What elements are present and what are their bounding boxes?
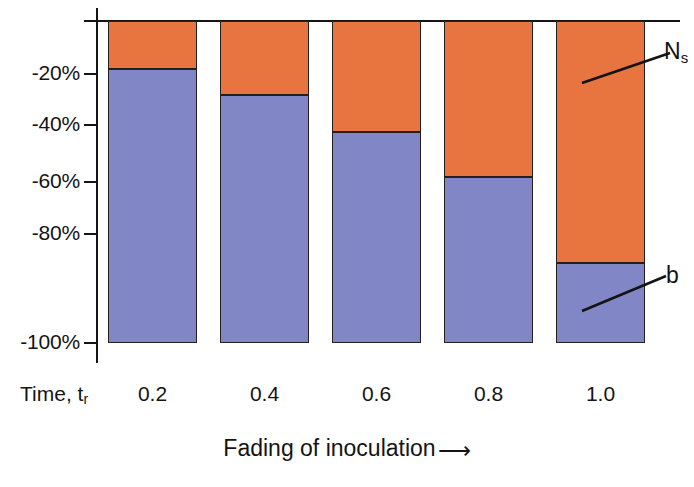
y-tick-mark [84, 73, 97, 75]
y-tick-label: -40% [0, 113, 80, 134]
y-tick-mark [84, 342, 97, 344]
plot-area: -20% -40% -60% -80% -100% [0, 0, 694, 370]
chart-container: -20% -40% -60% -80% -100% Ns b Time, tr [0, 0, 694, 487]
x-axis-row-title: Time, tr [20, 383, 88, 404]
bar-segment-ns [108, 21, 197, 69]
bar-segment-b [108, 69, 197, 343]
bar-0.6 [332, 21, 421, 343]
x-axis-row-title-text: Time, t [20, 382, 83, 405]
y-tick-label: -100% [0, 331, 80, 352]
series-callout-ns: Ns [664, 40, 688, 63]
right-arrow-icon: ⟶ [438, 439, 471, 462]
bar-segment-ns [220, 21, 309, 95]
bar-segment-ns [444, 21, 533, 177]
x-axis-label-0.2: 0.2 [108, 383, 197, 404]
series-callout-ns-subscript: s [681, 49, 689, 66]
x-axis-label-0.8: 0.8 [444, 383, 533, 404]
y-tick-label: -20% [0, 62, 80, 83]
y-tick-label: -60% [0, 170, 80, 191]
bar-0.2 [108, 21, 197, 343]
series-callout-b-text: b [666, 262, 679, 288]
series-callout-ns-text: N [664, 38, 681, 64]
x-axis-label-0.6: 0.6 [332, 383, 421, 404]
bar-segment-b [444, 177, 533, 343]
y-tick-label: -80% [0, 222, 80, 243]
chart-caption: Fading of inoculation⟶ [0, 437, 694, 460]
bar-1.0 [556, 21, 645, 343]
chart-caption-text: Fading of inoculation [223, 435, 435, 461]
y-tick-mark [84, 124, 97, 126]
series-callout-b: b [666, 264, 679, 287]
bar-segment-ns [556, 21, 645, 263]
bar-segment-b [220, 95, 309, 343]
x-axis-row-title-subscript: r [83, 391, 88, 407]
y-axis-line [96, 8, 98, 363]
x-axis-label-1.0: 1.0 [556, 383, 645, 404]
y-tick-mark [84, 181, 97, 183]
y-tick-mark [84, 233, 97, 235]
bar-segment-b [332, 132, 421, 343]
x-axis-label-0.4: 0.4 [220, 383, 309, 404]
bar-segment-ns [332, 21, 421, 132]
bar-segment-b [556, 263, 645, 344]
bar-0.8 [444, 21, 533, 343]
bar-0.4 [220, 21, 309, 343]
